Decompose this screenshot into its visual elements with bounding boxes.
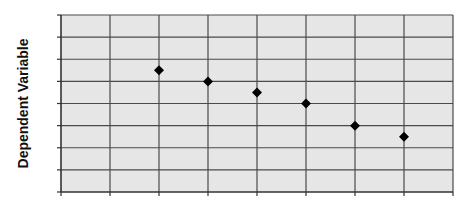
y-axis-label: Dependent Variable [15, 38, 31, 168]
scatter-chart: Dependent Variable [0, 0, 470, 206]
